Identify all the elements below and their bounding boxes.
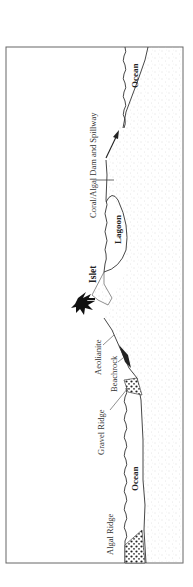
- sea-surface-left: [124, 388, 127, 563]
- palm-tree-icon: [71, 292, 95, 315]
- label-aeolianite: Aeolianite: [93, 339, 103, 375]
- label-ocean-left: Ocean: [130, 467, 140, 492]
- leader-aeolianite: [103, 335, 114, 345]
- label-gravel-ridge: Gravel Ridge: [96, 409, 106, 455]
- label-lagoon: Lagoon: [113, 215, 123, 244]
- label-beachrock: Beachrock: [109, 355, 119, 392]
- algal-ridge-block: [125, 530, 145, 563]
- label-algal-ridge: Algal Ridge: [105, 513, 115, 555]
- cross-section-diagram: Coral/Algal Dam and Spillway Ocean Lagoo…: [0, 0, 193, 587]
- arrow-icon: [113, 130, 119, 139]
- label-islet: Islet: [88, 265, 98, 283]
- label-ocean-right: Ocean: [130, 64, 140, 89]
- label-dam-spillway: Coral/Algal Dam and Spillway: [88, 112, 98, 218]
- lagoon-surface: [104, 160, 107, 272]
